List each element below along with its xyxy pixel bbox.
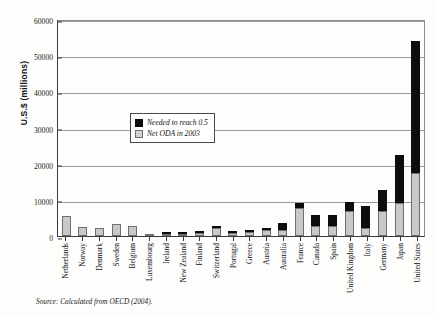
bar-stack[interactable] (178, 232, 187, 236)
x-axis-tick (233, 237, 234, 241)
x-axis-tick (65, 237, 66, 241)
x-axis-tick-label: Austria (262, 243, 271, 265)
bar-segment-net-oda (278, 230, 287, 236)
bar-stack[interactable] (411, 41, 420, 236)
x-axis-tick-label: United States (412, 243, 421, 283)
x-axis-slot: Finland (191, 237, 208, 297)
bar-segment-net-oda (411, 173, 420, 236)
bar-slot (308, 21, 325, 236)
x-axis-tick-label: Ireland (161, 243, 170, 264)
bar-stack[interactable] (228, 231, 237, 236)
x-axis-tick-label: Norway (78, 243, 87, 267)
bar-slot (391, 21, 408, 236)
bar-slot (91, 21, 108, 236)
bar-stack[interactable] (311, 215, 320, 236)
x-axis-tick (116, 237, 117, 241)
bar-segment-net-oda (228, 233, 237, 236)
x-axis-slot: Netherlands (57, 237, 74, 297)
bar-stack[interactable] (145, 234, 154, 236)
x-axis-tick (400, 237, 401, 241)
bar-stack[interactable] (328, 215, 337, 236)
bar-stack[interactable] (262, 228, 271, 236)
bar-segment-needed (411, 41, 420, 173)
x-axis-tick-label: Luxembourg (145, 243, 154, 281)
x-axis-tick-label: Portugal (228, 243, 237, 268)
x-axis-slot: Ireland (157, 237, 174, 297)
x-axis-tick-label: Denmark (94, 243, 103, 271)
x-axis-slot: Italy (358, 237, 375, 297)
bar-stack[interactable] (378, 190, 387, 236)
bar-segment-net-oda (128, 226, 137, 236)
x-axis-tick-label: Netherlands (61, 243, 70, 279)
x-axis-tick (367, 237, 368, 241)
bar-stack[interactable] (78, 227, 87, 236)
x-axis-slot: Greece (241, 237, 258, 297)
bar-stack[interactable] (112, 224, 121, 236)
x-axis-slot: Germany (375, 237, 392, 297)
bar-stack[interactable] (395, 155, 404, 236)
bar-slot (108, 21, 125, 236)
x-axis-tick-label: Sweden (111, 243, 120, 266)
bar-segment-net-oda (395, 203, 404, 236)
plot-area: 0100002000030000400005000060000 Needed t… (57, 20, 425, 237)
legend-label-needed: Needed to reach 0.5 (147, 118, 208, 127)
bar-segment-net-oda (78, 227, 87, 236)
bar-slot (75, 21, 92, 236)
bar-segment-net-oda (162, 234, 171, 236)
bar-segment-net-oda (112, 224, 121, 236)
bar-stack[interactable] (128, 226, 137, 236)
bar-stack[interactable] (162, 232, 171, 236)
x-axis-tick (266, 237, 267, 241)
bar-stack[interactable] (195, 231, 204, 236)
legend-swatch-net-oda-icon (135, 130, 143, 138)
x-axis-tick (166, 237, 167, 241)
bar-slot (241, 21, 258, 236)
bar-stack[interactable] (62, 216, 71, 236)
bar-segment-needed (311, 215, 320, 226)
bar-stack[interactable] (245, 230, 254, 236)
bar-segment-net-oda (178, 234, 187, 236)
y-axis-tick-label: 50000 (34, 53, 58, 62)
y-axis-tick-label: 40000 (34, 89, 58, 98)
x-axis-tick (132, 237, 133, 241)
x-axis-tick-label: Belgium (128, 243, 137, 268)
bar-segment-net-oda (212, 228, 221, 236)
bar-slot (58, 21, 75, 236)
x-axis-slot: Sweden (107, 237, 124, 297)
x-axis-tick-label: Italy (362, 243, 371, 257)
bar-slot (224, 21, 241, 236)
bar-stack[interactable] (345, 202, 354, 236)
bar-segment-net-oda (262, 230, 271, 236)
bar-stack[interactable] (361, 206, 370, 236)
bar-segment-net-oda (345, 211, 354, 236)
legend-item-needed: Needed to reach 0.5 (135, 117, 208, 128)
x-axis-tick (82, 237, 83, 241)
x-axis-tick-label: United Kingdom (345, 243, 354, 293)
x-axis-tick (149, 237, 150, 241)
x-axis-tick-label: France (295, 243, 304, 263)
x-axis-slot: Denmark (90, 237, 107, 297)
x-axis-slot: Belgium (124, 237, 141, 297)
bar-segment-net-oda (145, 234, 154, 236)
bar-stack[interactable] (295, 203, 304, 236)
bar-stack[interactable] (212, 226, 221, 236)
y-axis-tick-label: 60000 (34, 17, 58, 26)
bar-stack[interactable] (278, 223, 287, 236)
x-axis-tick-label: Australia (278, 243, 287, 270)
x-axis: NetherlandsNorwayDenmarkSwedenBelgiumLux… (57, 237, 425, 297)
x-axis-slot: Canada (308, 237, 325, 297)
x-axis-tick-label: Switzerland (211, 243, 220, 278)
bar-segment-needed (345, 202, 354, 211)
x-axis-slot: Spain (325, 237, 342, 297)
x-axis-tick (316, 237, 317, 241)
bar-slot (407, 21, 424, 236)
x-axis-slot: Austria (258, 237, 275, 297)
x-axis-tick (199, 237, 200, 241)
x-axis-slot: United States (408, 237, 425, 297)
chart-legend: Needed to reach 0.5 Net ODA in 2003 (130, 113, 215, 143)
legend-label-net-oda: Net ODA in 2003 (147, 129, 200, 138)
bar-stack[interactable] (95, 228, 104, 236)
x-axis-slot: Japan (392, 237, 409, 297)
y-axis-tick-label: 20000 (34, 161, 58, 170)
x-axis-slot: Norway (74, 237, 91, 297)
